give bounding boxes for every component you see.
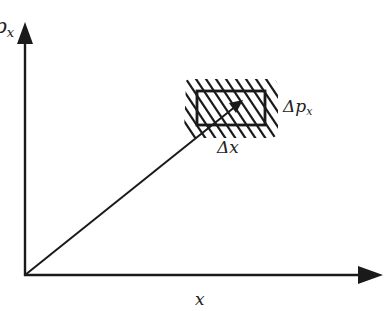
- delta-x-label: Δx: [216, 137, 239, 157]
- p-axis-arrowhead-icon: [17, 22, 33, 44]
- phase-space-diagram: px x Δx Δpx: [0, 0, 386, 311]
- x-axis-arrowhead-icon: [358, 266, 383, 284]
- phase-point-vector: [25, 106, 236, 275]
- x-axis-label: x: [195, 289, 205, 309]
- delta-p-label: Δpx: [282, 96, 313, 118]
- p-axis-label: px: [0, 14, 15, 40]
